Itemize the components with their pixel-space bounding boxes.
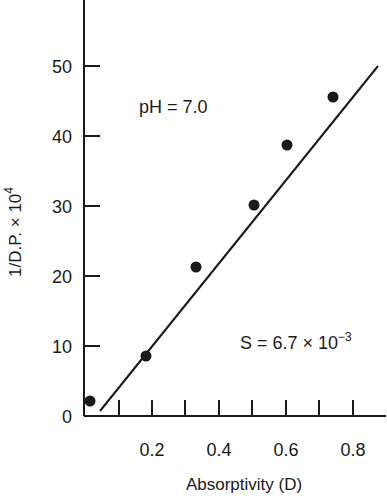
data-points [85, 92, 339, 407]
x-tick-label-0.6: 0.6 [273, 440, 298, 460]
y-ticks [84, 66, 100, 346]
slope-annotation-main: S = 6.7 × 10 [240, 333, 338, 353]
y-tick-label-30: 30 [52, 197, 72, 217]
data-point [85, 396, 96, 407]
x-tick-label-0.2: 0.2 [139, 440, 164, 460]
data-point [282, 140, 293, 151]
y-tick-label-0: 0 [62, 407, 72, 427]
ph-annotation: pH = 7.0 [139, 97, 208, 117]
data-point [141, 351, 152, 362]
y-tick-label-50: 50 [52, 57, 72, 77]
slope-annotation: S = 6.7 × 10−3 [240, 330, 352, 353]
y-tick-label-10: 10 [52, 337, 72, 357]
x-axis-title: Absorptivity (D) [186, 475, 302, 494]
y-axis-title-sup: 4 [2, 187, 16, 194]
data-point [191, 262, 202, 273]
y-axis-title: 1/D.P. × 104 [2, 187, 25, 277]
x-tick-label-0.8: 0.8 [340, 440, 365, 460]
y-tick-label-40: 40 [52, 127, 72, 147]
data-point [249, 200, 260, 211]
data-point [328, 92, 339, 103]
slope-annotation-sup: −3 [338, 330, 352, 344]
y-axis-title-main: 1/D.P. × 10 [6, 194, 25, 277]
x-tick-label-0.4: 0.4 [206, 440, 231, 460]
x-ticks [119, 400, 353, 416]
y-tick-label-20: 20 [52, 267, 72, 287]
chart: 50 40 30 20 10 0 0.2 0.4 0.6 0.8 Absorpt… [0, 0, 387, 502]
